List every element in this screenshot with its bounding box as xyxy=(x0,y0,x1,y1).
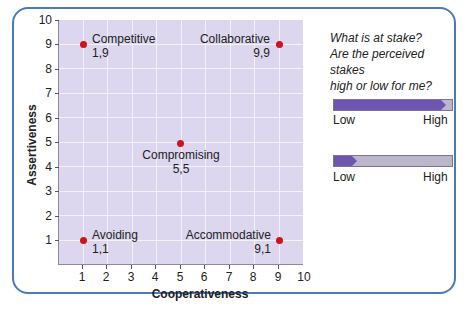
x-tick-label: 8 xyxy=(243,270,263,284)
y-tick-mark xyxy=(55,118,59,119)
x-tick-mark xyxy=(106,265,107,269)
bar-low-label: Low xyxy=(333,113,355,127)
x-tick-label: 3 xyxy=(121,270,141,284)
question-line: Are the perceived stakes xyxy=(330,46,460,78)
x-tick-mark xyxy=(180,265,181,269)
y-tick-label: 10 xyxy=(32,13,52,27)
x-tick-mark xyxy=(82,265,83,269)
gridline xyxy=(59,68,303,69)
point-coord: 1,1 xyxy=(92,242,138,256)
x-tick-mark xyxy=(131,265,132,269)
point-label-collaborative: Collaborative 9,9 xyxy=(190,32,270,60)
point-label-accommodative: Accommodative 9,1 xyxy=(180,228,271,256)
y-tick-label: 1 xyxy=(32,233,52,247)
point-coord: 5,5 xyxy=(136,162,226,176)
y-tick-mark xyxy=(55,69,59,70)
x-tick-label: 9 xyxy=(268,270,288,284)
point-label-compromising: Compromising 5,5 xyxy=(136,148,226,176)
y-tick-label: 2 xyxy=(32,209,52,223)
bar-high-label: High xyxy=(423,170,448,184)
gridline xyxy=(59,215,303,216)
point-coord: 1,9 xyxy=(92,46,155,60)
x-tick-label: 1 xyxy=(72,270,92,284)
data-point-collaborative xyxy=(276,41,283,48)
bar-low-label: Low xyxy=(333,170,355,184)
y-tick-mark xyxy=(55,142,59,143)
y-tick-mark xyxy=(55,191,59,192)
x-tick-mark xyxy=(229,265,230,269)
point-name: Compromising xyxy=(136,148,226,162)
x-tick-mark xyxy=(278,265,279,269)
point-name: Competitive xyxy=(92,32,155,46)
x-tick-label: 7 xyxy=(219,270,239,284)
y-tick-mark xyxy=(55,240,59,241)
y-tick-mark xyxy=(55,93,59,94)
stakes-bar-low xyxy=(333,155,453,167)
question-line: high or low for me? xyxy=(330,78,460,94)
point-label-competitive: Competitive 1,9 xyxy=(92,32,155,60)
x-tick-label: 5 xyxy=(170,270,190,284)
bar-fill xyxy=(334,156,352,166)
data-point-compromising xyxy=(177,140,184,147)
x-tick-label: 6 xyxy=(194,270,214,284)
data-point-competitive xyxy=(80,41,87,48)
y-tick-mark xyxy=(55,216,59,217)
data-point-accommodative xyxy=(276,237,283,244)
point-name: Accommodative xyxy=(180,228,271,242)
x-tick-label: 2 xyxy=(96,270,116,284)
gridline xyxy=(59,191,303,192)
x-tick-label: 10 xyxy=(294,270,314,284)
bar-high-label: High xyxy=(423,113,448,127)
gridline xyxy=(59,93,303,94)
bar-fill xyxy=(334,100,441,110)
point-name: Collaborative xyxy=(190,32,270,46)
y-axis-label: Assertiveness xyxy=(25,95,39,195)
point-label-avoiding: Avoiding 1,1 xyxy=(92,228,138,256)
y-tick-label: 9 xyxy=(32,37,52,51)
y-tick-mark xyxy=(55,167,59,168)
y-tick-mark xyxy=(55,44,59,45)
point-name: Avoiding xyxy=(92,228,138,242)
point-coord: 9,1 xyxy=(180,242,271,256)
stakes-bar-high xyxy=(333,99,453,111)
x-tick-mark xyxy=(253,265,254,269)
x-tick-mark xyxy=(204,265,205,269)
point-coord: 9,9 xyxy=(190,46,270,60)
question-line: What is at stake? xyxy=(330,30,460,46)
data-point-avoiding xyxy=(80,237,87,244)
y-tick-label: 8 xyxy=(32,62,52,76)
stakes-question: What is at stake? Are the perceived stak… xyxy=(330,30,460,94)
x-tick-label: 4 xyxy=(145,270,165,284)
y-tick-mark xyxy=(55,20,59,21)
x-tick-mark xyxy=(155,265,156,269)
gridline xyxy=(59,117,303,118)
x-axis-label: Cooperativeness xyxy=(140,287,260,301)
